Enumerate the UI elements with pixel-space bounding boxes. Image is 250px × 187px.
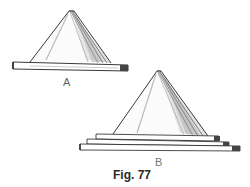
panel-a bbox=[13, 11, 128, 71]
panel-a-label: A bbox=[63, 76, 70, 88]
panel-b bbox=[80, 71, 240, 151]
figure-caption: Fig. 77 bbox=[113, 168, 151, 182]
panel-b-label: B bbox=[155, 156, 162, 168]
pyramid-b bbox=[113, 71, 208, 136]
base-board-a bbox=[13, 62, 128, 71]
pyramid-a bbox=[30, 11, 111, 63]
illustration bbox=[0, 0, 250, 187]
